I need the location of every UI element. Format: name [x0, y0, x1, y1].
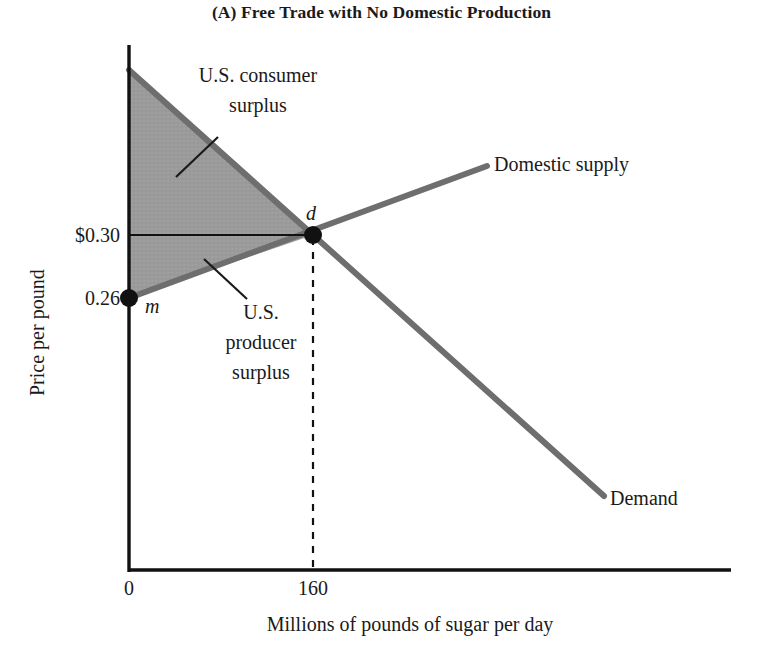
figure-panel: (A) Free Trade with No Domestic Producti…: [0, 0, 763, 647]
point-d-marker: [304, 226, 322, 244]
consumer-surplus-label-line1: U.S. consumer: [168, 63, 348, 88]
producer-surplus-label-line1: U.S.: [196, 300, 326, 325]
consumer-surplus-label-line2: surplus: [168, 93, 348, 118]
chart-plot-area: [0, 0, 763, 647]
producer-surplus-label-line2: producer: [196, 330, 326, 355]
demand-label: Demand: [610, 486, 678, 511]
x-tick-label-160: 160: [283, 576, 343, 601]
domestic-supply-label: Domestic supply: [494, 152, 629, 177]
x-tick-label-0: 0: [109, 576, 149, 601]
point-m-label: m: [145, 294, 159, 319]
producer-surplus-label-line3: surplus: [196, 360, 326, 385]
demand-curve: [129, 70, 604, 496]
y-tick-label-026: 0.26: [28, 286, 120, 311]
point-m-marker: [120, 289, 138, 307]
y-tick-label-030: $0.30: [28, 223, 120, 248]
point-d-label: d: [306, 201, 316, 226]
x-axis-title: Millions of pounds of sugar per day: [180, 612, 640, 637]
